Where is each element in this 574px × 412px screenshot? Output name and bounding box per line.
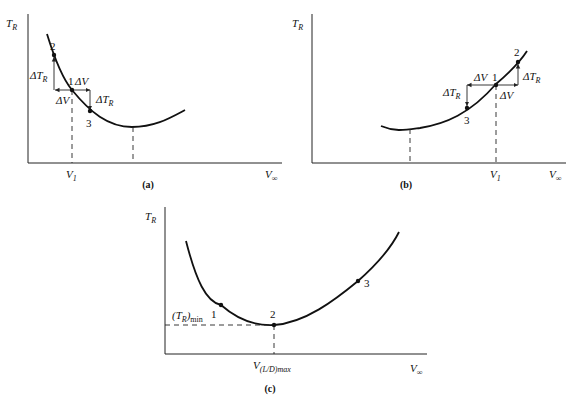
panel-b-delta-v-label-right: ΔV: [499, 89, 514, 101]
panel-b-point-3-label: 3: [464, 114, 470, 126]
panel-a-delta-tr-label-right: ΔTR: [95, 93, 114, 108]
panel-c-point-3-label: 3: [364, 277, 370, 289]
panel-a-caption: (a): [142, 179, 154, 191]
panel-a-delta-v-label-right: ΔV: [74, 75, 89, 87]
panel-b-y-label: TR: [292, 17, 303, 32]
panel-b-delta-v-label-left: ΔV: [473, 71, 488, 83]
panel-a: TR V∞ 2 1 3 ΔTR ΔV ΔV ΔTR V1 (a): [6, 14, 282, 191]
panel-c-caption: (c): [264, 383, 275, 395]
panel-c-point-2: [272, 323, 276, 327]
panel-c-point-1-label: 1: [211, 308, 217, 320]
panel-a-v1-tick-label: V1: [66, 168, 77, 183]
panel-c-point-3: [356, 279, 360, 283]
panel-a-point-3: [88, 109, 92, 113]
panel-b-x-label: V∞: [549, 168, 562, 183]
panel-b-point-2: [516, 60, 520, 64]
thrust-required-diagrams: TR V∞ 2 1 3 ΔTR ΔV ΔV ΔTR V1 (a) TR V∞: [0, 0, 574, 412]
panel-c-v-ld-max-label: V(L/D)max: [253, 359, 291, 374]
panel-b-point-1-label: 1: [492, 71, 498, 83]
panel-a-delta-tr-label-left: ΔTR: [29, 69, 48, 84]
panel-c-point-2-label: 2: [270, 308, 276, 320]
panel-a-point-1-label: 1: [68, 75, 74, 87]
panel-c-tr-min-label: (TR)min: [172, 309, 203, 324]
panel-b-delta-tr-label-right: ΔTR: [522, 70, 541, 85]
panel-a-axes: [28, 14, 282, 163]
panel-b-point-2-label: 2: [514, 46, 520, 58]
panel-c-axes: [165, 207, 427, 354]
panel-b-axes: [312, 14, 566, 163]
panel-b-v1-tick-label: V1: [490, 168, 501, 183]
panel-a-point-3-label: 3: [86, 117, 92, 129]
panel-b-delta-tr-label-left: ΔTR: [442, 86, 461, 101]
panel-a-point-1: [70, 88, 74, 92]
panel-c-x-label: V∞: [410, 362, 423, 377]
panel-a-point-2: [52, 53, 56, 57]
panel-b-point-1: [494, 83, 498, 87]
panel-a-delta-v-label-left: ΔV: [55, 94, 70, 106]
panel-c-point-1: [219, 303, 223, 307]
panel-a-y-label: TR: [6, 17, 17, 32]
panel-b: TR V∞ 1 2 3 ΔV ΔV ΔTR ΔTR V1 (b): [292, 14, 566, 191]
panel-a-point-2-label: 2: [50, 40, 56, 52]
panel-c-y-label: TR: [145, 210, 156, 225]
panel-a-x-label: V∞: [265, 168, 278, 183]
panel-b-point-3: [465, 106, 469, 110]
panel-b-caption: (b): [400, 179, 412, 191]
panel-c: TR V∞ 1 2 3 (TR)min V(L/D)max (c): [145, 207, 427, 395]
